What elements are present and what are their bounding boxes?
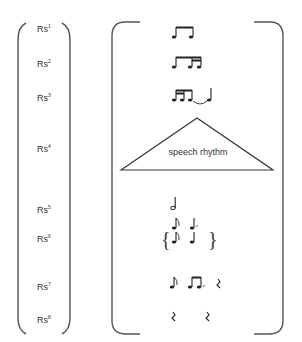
rs2-rhythm-icon	[172, 57, 201, 69]
level-label-rs4: Rs4	[37, 143, 51, 154]
rs7-rhythm-icon	[170, 277, 220, 289]
rs3-rhythm-icon	[172, 88, 211, 104]
right-bracket-close	[254, 22, 283, 334]
level-label-rs6: Rs6	[37, 233, 51, 244]
level-label-rs1: Rs1	[37, 23, 51, 34]
rs1-rhythm-icon	[172, 27, 193, 39]
left-bracket-open	[18, 23, 26, 334]
level-label-rs7: Rs7	[37, 281, 51, 292]
right-bracket-open	[112, 22, 140, 334]
level-label-rs8: Rs8	[37, 314, 51, 325]
svg-text:}: }	[208, 228, 218, 250]
rs8-rhythm-icon	[172, 312, 209, 321]
level-label-rs2: Rs2	[37, 58, 51, 69]
rs5-rhythm-icon	[171, 197, 176, 210]
rhythm-notation: { }	[161, 27, 220, 321]
left-bracket-close	[62, 23, 70, 334]
level-label-rs5: Rs5	[37, 204, 51, 215]
svg-text:{: {	[161, 228, 171, 250]
level-label-rs3: Rs3	[37, 92, 51, 103]
rs6-rhythm-icon: { }	[161, 218, 218, 250]
speech-rhythm-triangle	[121, 118, 273, 170]
speech-rhythm-label: speech rhythm	[168, 147, 227, 157]
